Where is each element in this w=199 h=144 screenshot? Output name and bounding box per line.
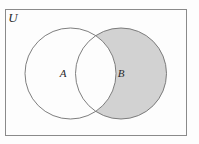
universal-set-label: U	[8, 10, 19, 25]
set-b-label: B	[118, 67, 125, 79]
venn-diagram-canvas: U A B	[0, 0, 199, 144]
shaded-region-b-minus-a	[0, 0, 199, 144]
venn-diagram-figure: U A B	[0, 0, 199, 144]
set-a-label: A	[59, 67, 67, 79]
